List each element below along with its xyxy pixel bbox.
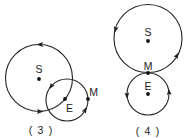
figure-4-moon-label: M — [144, 60, 153, 72]
figure-3-caption: ( 3 ) — [29, 124, 54, 136]
figure-3-earth-dot — [63, 97, 67, 101]
figure-4-caption: ( 4 ) — [136, 125, 161, 137]
figure-4-moon-dot — [146, 71, 150, 75]
figure-3-sun-dot — [37, 77, 41, 81]
figure-3-moon-label: M — [89, 86, 98, 98]
figure-4-earth-dot — [146, 92, 150, 96]
figure-3: S E M ( 3 ) — [6, 42, 98, 136]
figure-4-large-orbit-arrow-right-icon — [173, 51, 181, 59]
orbit-diagrams: S E M ( 3 ) S M E ( 4 ) — [0, 0, 184, 138]
figure-4-sun-label: S — [144, 26, 151, 38]
figure-3-small-orbit-arrow-lower-right-icon — [82, 106, 89, 114]
figure-3-sun-label: S — [35, 63, 42, 75]
figure-4-earth-label: E — [144, 80, 151, 92]
figure-3-earth-label: E — [66, 102, 73, 114]
figure-4-sun-dot — [146, 39, 150, 43]
figure-4: S M E ( 4 ) — [112, 5, 182, 138]
